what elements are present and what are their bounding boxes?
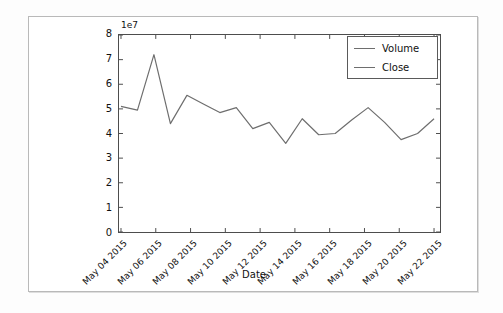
y-tick-label: 7 [86, 54, 112, 64]
legend-line-icon [354, 48, 375, 49]
legend-item-close: Close [348, 58, 439, 77]
y-tick-label: 8 [86, 29, 112, 39]
legend-label: Close [382, 62, 409, 73]
y-tick-label: 5 [86, 104, 112, 114]
y-tick-label: 2 [86, 178, 112, 188]
screenshot-root: 1e7 012345678 May 04 2015May 06 2015May … [0, 0, 503, 313]
y-axis-offset-label: 1e7 [121, 20, 138, 30]
y-tick-label: 6 [86, 79, 112, 89]
y-tick-label: 4 [86, 129, 112, 139]
legend-label: Volume [382, 43, 419, 54]
y-tick-label: 1 [86, 203, 112, 213]
legend-item-volume: Volume [348, 39, 439, 58]
legend: Volume Close [347, 36, 438, 79]
y-tick-label: 0 [86, 228, 112, 238]
figure: 1e7 012345678 May 04 2015May 06 2015May … [29, 17, 479, 293]
x-axis-title: Date [29, 269, 479, 280]
chart-card: 1e7 012345678 May 04 2015May 06 2015May … [28, 16, 478, 292]
legend-line-icon [354, 67, 375, 68]
y-tick-label: 3 [86, 153, 112, 163]
